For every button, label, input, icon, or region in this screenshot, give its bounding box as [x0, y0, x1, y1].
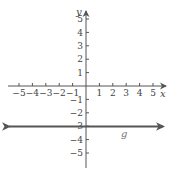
y-tick-label: 3 — [77, 41, 83, 51]
x-tick-label: 4 — [137, 88, 143, 98]
x-axis: x −5−4−3−2−112345 — [8, 83, 166, 99]
x-tick-label: −3 — [39, 88, 53, 98]
series-label-g: g — [121, 128, 127, 139]
x-tick-label: 3 — [123, 88, 129, 98]
y-axis: y 54321−1−2−3−4−5 — [70, 6, 89, 168]
x-tick-label: −2 — [53, 88, 66, 98]
y-tick-label: −4 — [70, 135, 84, 145]
y-tick-label: −2 — [70, 108, 83, 118]
y-tick-label: −1 — [70, 95, 83, 105]
x-tick-label: −4 — [26, 88, 40, 98]
graph: x −5−4−3−2−112345 y 54321−1−2−3−4−5 g — [0, 0, 172, 172]
x-tick-label: 1 — [97, 88, 103, 98]
x-tick-label: −5 — [12, 88, 26, 98]
y-tick-label: −5 — [70, 148, 84, 158]
x-axis-label: x — [160, 88, 166, 99]
y-tick-label: 4 — [77, 28, 83, 38]
x-tick-label: 5 — [150, 88, 156, 98]
y-tick-label: 2 — [77, 54, 83, 64]
y-tick-label: 1 — [77, 68, 83, 78]
x-ticks: −5−4−3−2−112345 — [12, 83, 156, 98]
x-tick-label: 2 — [110, 88, 116, 98]
y-tick-label: 5 — [77, 14, 83, 24]
